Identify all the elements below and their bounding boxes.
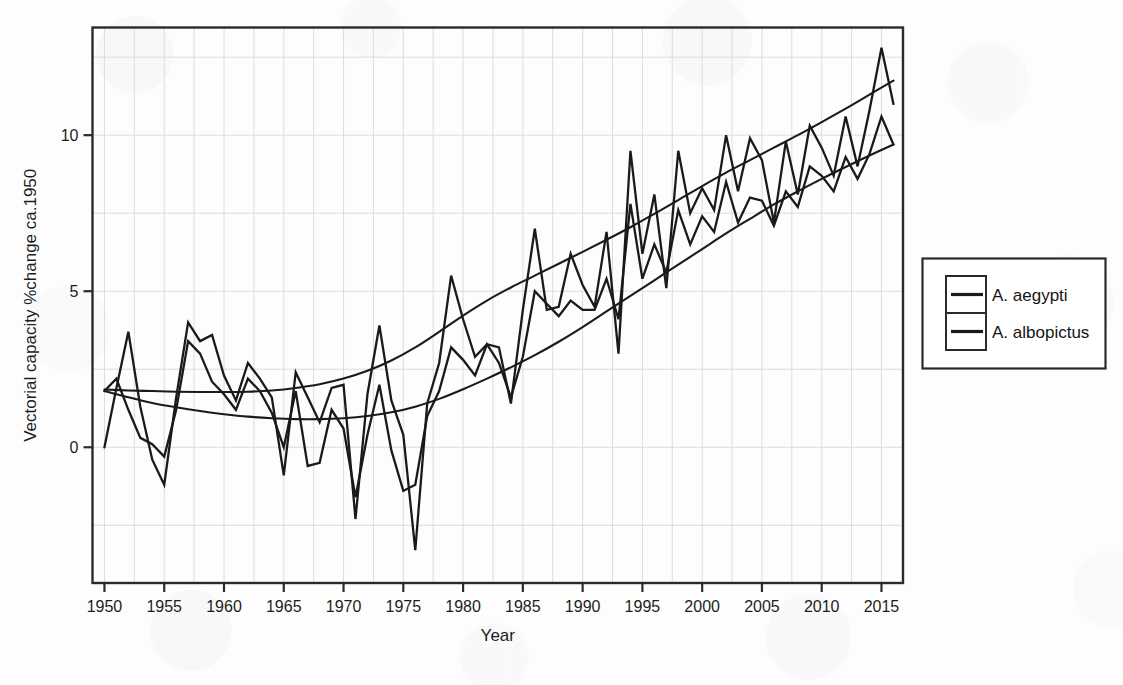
x-tick-label: 2010 [804, 598, 840, 615]
plot-frame [93, 28, 904, 584]
figure-page: 1950195519601965197019751980198519901995… [0, 0, 1123, 685]
legend: A. aegyptiA. albopictus [923, 259, 1106, 369]
y-axis: 0510 [61, 127, 93, 456]
line-chart: 1950195519601965197019751980198519901995… [0, 0, 1123, 685]
y-axis-title: Vectorial capacity %change ca.1950 [21, 169, 40, 442]
x-tick-label: 1970 [326, 598, 362, 615]
x-tick-label: 2005 [744, 598, 780, 615]
trend-curve [104, 145, 893, 420]
x-tick-label: 2015 [864, 598, 900, 615]
data-series-group [104, 48, 893, 550]
x-tick-label: 1995 [625, 598, 661, 615]
x-tick-label: 1975 [386, 598, 422, 615]
x-tick-label: 1990 [565, 598, 601, 615]
x-tick-label: 1985 [505, 598, 541, 615]
gridlines [93, 28, 904, 584]
x-axis-title: Year [481, 626, 516, 645]
data-series-line [104, 116, 893, 497]
x-axis: 1950195519601965197019751980198519901995… [87, 583, 900, 615]
x-tick-label: 2000 [684, 598, 720, 615]
y-tick-label: 10 [61, 127, 79, 144]
x-tick-label: 1965 [266, 598, 302, 615]
x-tick-label: 1950 [87, 598, 123, 615]
x-tick-label: 1955 [146, 598, 182, 615]
x-tick-label: 1980 [445, 598, 481, 615]
trend-curve [104, 81, 893, 392]
y-tick-label: 5 [70, 283, 79, 300]
legend-item-label: A. aegypti [992, 286, 1068, 305]
data-series-line [104, 48, 893, 550]
y-tick-label: 0 [70, 439, 79, 456]
x-tick-label: 1960 [206, 598, 242, 615]
legend-item-label: A. albopictus [992, 323, 1089, 342]
